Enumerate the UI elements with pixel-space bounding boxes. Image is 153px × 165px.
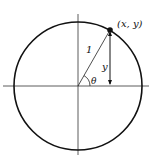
point-label: (x, y) [117,18,143,29]
unit-circle-diagram: (x, y) 1 y θ [0,0,153,165]
point-marker [107,27,113,33]
arrow-down-icon [108,80,112,85]
height-label: y [101,61,108,72]
radius-label: 1 [86,44,92,55]
angle-arc [84,76,90,86]
angle-label: θ [91,76,97,86]
